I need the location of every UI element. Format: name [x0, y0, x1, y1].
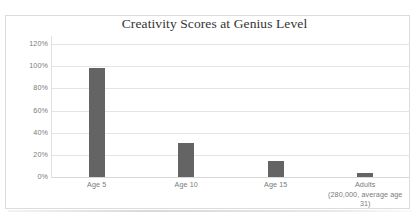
bar-0[interactable] [89, 68, 105, 177]
y-tick-label-0: 0% [8, 173, 48, 181]
bar-2[interactable] [268, 161, 284, 177]
x-label-line: Age 10 [144, 180, 230, 190]
gridline-0 [52, 177, 410, 178]
y-tick-label-100: 100% [8, 62, 48, 70]
y-axis-tick-labels: 120%100%80%60%40%20%0% [6, 44, 48, 177]
gridline-100 [52, 66, 410, 67]
x-axis-label-0: Age 5 [54, 180, 140, 190]
x-axis-label-3: Adults(280,000, average age31) [323, 180, 409, 209]
y-tick-label-20: 20% [8, 151, 48, 159]
gridline-80 [52, 88, 410, 89]
x-label-line: (280,000, average age [323, 190, 409, 200]
x-label-line: Adults [323, 180, 409, 190]
gridline-120 [52, 44, 410, 45]
y-tick-label-80: 80% [8, 84, 48, 92]
gridline-20 [52, 155, 410, 156]
chart-frame: Creativity Scores at Genius Level 120%10… [5, 15, 410, 209]
x-axis-label-2: Age 15 [233, 180, 319, 190]
x-label-line: Age 15 [233, 180, 319, 190]
x-label-line: 31) [323, 199, 409, 209]
x-axis-label-1: Age 10 [144, 180, 230, 190]
x-axis-category-labels: Age 5Age 10Age 15Adults(280,000, average… [52, 180, 410, 220]
plot-area [52, 44, 410, 177]
y-tick-label-120: 120% [8, 40, 48, 48]
bar-3[interactable] [357, 173, 373, 177]
gridline-40 [52, 133, 410, 134]
frame-shadow [8, 210, 412, 212]
gridline-60 [52, 111, 410, 112]
x-label-line: Age 5 [54, 180, 140, 190]
bar-1[interactable] [178, 143, 194, 177]
chart-title: Creativity Scores at Genius Level [6, 16, 417, 31]
y-tick-label-40: 40% [8, 129, 48, 137]
y-tick-label-60: 60% [8, 107, 48, 115]
